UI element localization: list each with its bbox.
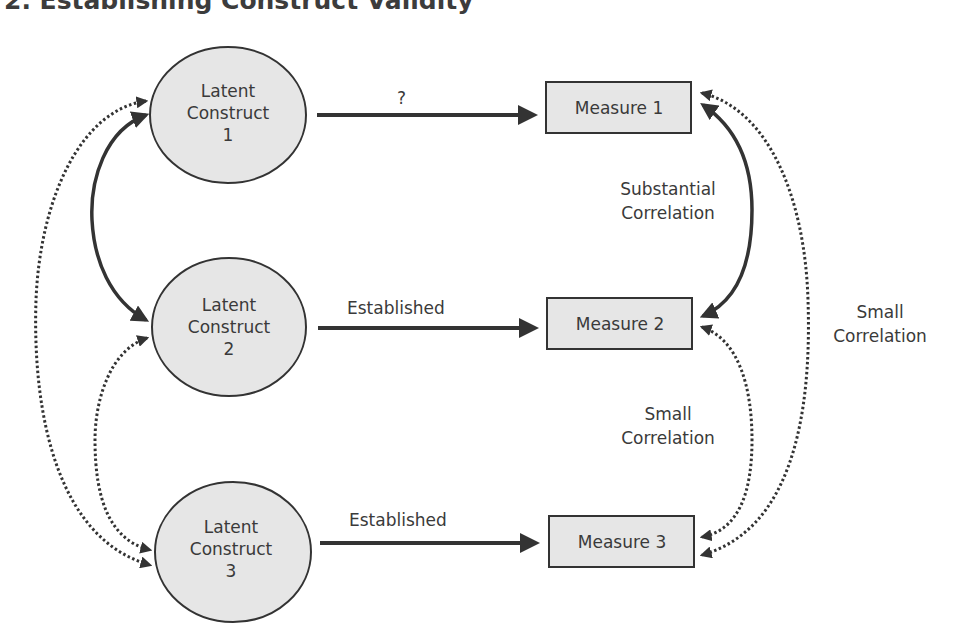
- edge-label-m2-m3-line2: Correlation: [608, 426, 728, 450]
- edge-m1-m3-dotted: [702, 93, 808, 555]
- edge-label-c3-m3: Established: [349, 508, 447, 532]
- edge-label-m2-m3-line1: Small: [608, 402, 728, 426]
- edge-c1-c3-dotted: [36, 101, 150, 565]
- construct-1-line2: Construct: [158, 102, 298, 124]
- edge-c1-c2-solid: [92, 115, 146, 320]
- construct-1-line1: Latent: [158, 80, 298, 102]
- construct-3-label: Latent Construct 3: [161, 516, 301, 582]
- diagram-canvas: [0, 0, 962, 642]
- construct-2-label: Latent Construct 2: [159, 294, 299, 360]
- edge-label-m1-m3: Small Correlation: [820, 300, 940, 348]
- edge-label-c1-m1: ?: [397, 86, 406, 110]
- construct-2-line2: Construct: [159, 316, 299, 338]
- edge-label-m1-m2: Substantial Correlation: [608, 177, 728, 225]
- construct-1-label: Latent Construct 1: [158, 80, 298, 146]
- edge-label-m2-m3: Small Correlation: [608, 402, 728, 450]
- construct-1-line3: 1: [158, 124, 298, 146]
- edge-label-m1-m3-line1: Small: [820, 300, 940, 324]
- edge-label-m1-m3-line2: Correlation: [820, 324, 940, 348]
- edge-label-m1-m2-line2: Correlation: [608, 201, 728, 225]
- measure-1-label: Measure 1: [549, 97, 689, 119]
- construct-3-line1: Latent: [161, 516, 301, 538]
- construct-2-line1: Latent: [159, 294, 299, 316]
- construct-2-line3: 2: [159, 338, 299, 360]
- construct-3-line3: 3: [161, 560, 301, 582]
- construct-3-line2: Construct: [161, 538, 301, 560]
- measure-3-label: Measure 3: [552, 531, 692, 553]
- edge-label-c2-m2: Established: [347, 296, 445, 320]
- edge-label-m1-m2-line1: Substantial: [608, 177, 728, 201]
- measure-2-label: Measure 2: [550, 313, 690, 335]
- edge-c2-c3-dotted: [95, 338, 150, 550]
